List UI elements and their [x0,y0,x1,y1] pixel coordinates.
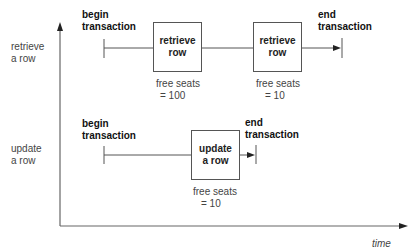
y-label-update: update a row [11,143,42,167]
x-axis-arrow-icon [399,223,408,229]
box-label: row [159,47,195,59]
label-line: retrieve [11,41,44,53]
diagram-lines [0,0,415,251]
label-line: update [11,143,42,155]
label-line: end [318,9,372,21]
seats-value: = 10 [256,90,300,102]
retrieve-row-box-2: retrieve row [253,22,302,72]
end-transaction-label-row1: end transaction [318,9,372,33]
label-line: a row [11,53,44,65]
seats-value: = 100 [156,90,200,102]
label-line: begin [82,9,136,21]
seats-line: free seats [193,186,237,198]
seats-line: free seats [256,78,300,90]
update-row-box: update a row [191,130,240,180]
arrow-icon [247,152,255,158]
label-line: begin [82,118,136,130]
box-label: update [199,143,232,155]
free-seats-label-1: free seats = 100 [156,78,200,102]
label-line: transaction [318,21,372,33]
label-line: a row [11,155,42,167]
seats-line: free seats [156,78,200,90]
free-seats-label-3: free seats = 10 [193,186,237,210]
free-seats-label-2: free seats = 10 [256,78,300,102]
box-label: row [259,47,295,59]
label-line: transaction [245,129,299,141]
begin-transaction-label-row2: begin transaction [82,118,136,142]
end-transaction-label-row2: end transaction [245,117,299,141]
y-label-retrieve: retrieve a row [11,41,44,65]
box-label: retrieve [259,35,295,47]
seats-value: = 10 [193,198,237,210]
label-line: transaction [82,130,136,142]
box-label: a row [199,155,232,167]
label-line: transaction [82,21,136,33]
begin-transaction-label-row1: begin transaction [82,9,136,33]
x-axis-label: time [372,238,391,249]
retrieve-row-box-1: retrieve row [153,22,202,72]
arrow-icon [333,45,341,51]
box-label: retrieve [159,35,195,47]
label-line: end [245,117,299,129]
y-axis-arrow-icon [57,22,63,31]
